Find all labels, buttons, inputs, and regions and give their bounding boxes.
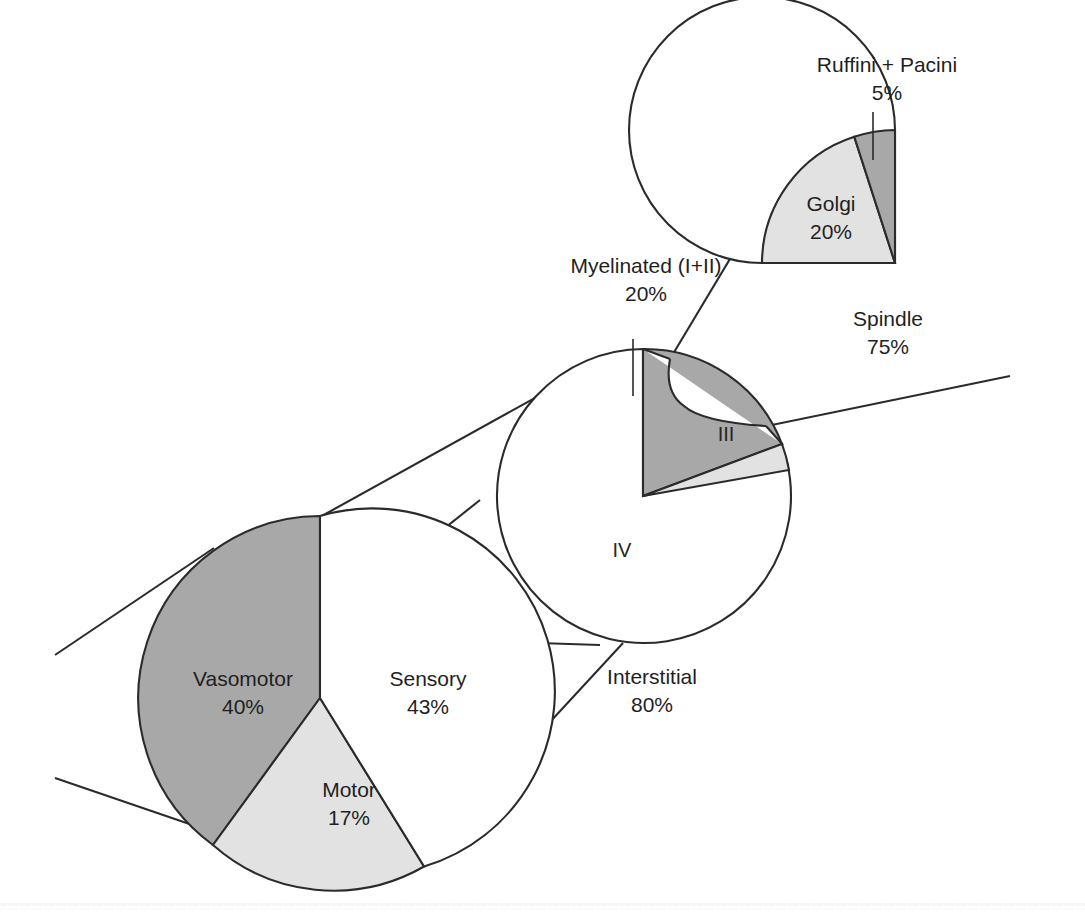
pie-chart-sensory-breakdown [497,349,791,643]
label-interstitial-pct: 80% [631,693,673,716]
label-motor-pct: 17% [328,806,370,829]
label-sensory-pct: 43% [407,695,449,718]
pie-chart-myelinated-breakdown [629,0,895,263]
label-spindle-pct: 75% [867,335,909,358]
label-fibre-iv: IV [613,539,633,561]
pie-cascade-figure: Vasomotor 40% Motor 17% Sensory 43% Myel… [0,0,1085,917]
scan-artifact-strip-secondary [0,908,1085,910]
scan-artifact-strip [0,903,1085,906]
label-fibre-iii: III [718,423,735,445]
label-spindle-name: Spindle [853,307,923,330]
label-sensory-name: Sensory [389,667,467,690]
label-golgi-name: Golgi [806,192,855,215]
label-golgi-pct: 20% [810,220,852,243]
label-myelinated-pct: 20% [625,282,667,305]
label-ruffini-pacini-pct: 5% [872,81,902,104]
label-myelinated-name: Myelinated (I+II) [570,254,721,277]
label-motor-name: Motor [322,778,376,801]
label-vasomotor-name: Vasomotor [193,667,293,690]
label-vasomotor-pct: 40% [222,695,264,718]
label-ruffini-pacini-name: Ruffini + Pacini [817,53,957,76]
label-interstitial-name: Interstitial [607,665,697,688]
pie-cascade-canvas: Vasomotor 40% Motor 17% Sensory 43% Myel… [0,0,1085,917]
pie-chart-nerve-fibres [138,508,555,890]
